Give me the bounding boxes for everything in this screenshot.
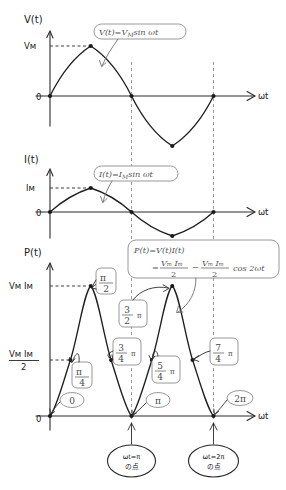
angle-3pi2-leader — [133, 287, 168, 300]
power-formula-equals: = — [152, 262, 159, 272]
angle-pi2-numerator: π — [100, 273, 106, 283]
power-formula-line1: P(t)=V(t)I(t) — [133, 245, 185, 255]
angle-5pi4-denominator: 4 — [157, 372, 163, 382]
angle-3pi2-leader-arrow — [163, 285, 169, 292]
power-formula-callout: P(t)=V(t)I(t) = Vₘ Iₘ 2 − Vₘ Iₘ 2 cos 2ω… — [128, 240, 279, 313]
bottom-callout-pi: ωt=π の点 — [108, 423, 156, 477]
angle-pi-label: π — [155, 396, 161, 406]
angle-0-label: 0 — [69, 396, 75, 406]
bottom-callouts: ωt=π の点 ωt=2π の点 — [108, 423, 239, 477]
voltage-origin-label: 0 — [36, 92, 41, 102]
power-origin-label: 0 — [36, 414, 41, 424]
bottom-callout-pi-line2: の点 — [125, 463, 139, 471]
power-formula-leader — [178, 278, 196, 312]
angle-5pi4-pi-symbol: π — [170, 368, 175, 376]
current-formula-trig: sin ωt — [128, 169, 153, 179]
angle-3pi2-denominator: 2 — [124, 316, 130, 326]
current-peak-tick-label: Iм — [26, 183, 35, 193]
power-mid-tick-denominator: 2 — [21, 362, 26, 372]
angle-2pi-leader — [215, 400, 227, 414]
current-point-max — [89, 186, 93, 190]
angle-3pi4-pi-symbol: π — [131, 350, 136, 358]
angle-5pi4-numerator: 5 — [157, 361, 163, 371]
bottom-callout-2pi-line2: の点 — [207, 463, 221, 471]
bottom-callout-2pi-line1: ωt=2π — [203, 453, 225, 461]
angle-3pi2-pi-symbol: π — [137, 312, 142, 320]
power-formula-num2: Vₘ Iₘ — [202, 258, 224, 268]
angle-3pi2-numerator: 3 — [124, 305, 130, 315]
current-point-pi — [129, 210, 133, 214]
angle-3pi4-denominator: 4 — [118, 354, 124, 364]
angle-callout-0: 0 — [50, 393, 84, 415]
current-formula-callout: I(t)=IMsin ωt — [94, 166, 178, 203]
bottom-callout-2pi-bubble — [189, 445, 239, 477]
voltage-x-axis-label: ωt — [258, 91, 269, 101]
voltage-point-min — [170, 144, 174, 148]
current-origin-label: 0 — [36, 208, 41, 218]
power-point-3pi2 — [170, 284, 174, 288]
power-formula-minus: − — [192, 262, 199, 272]
power-formula-num1: Vₘ Iₘ — [161, 258, 183, 268]
current-formula-eq: = — [112, 169, 119, 179]
angle-7pi4-leader — [194, 351, 210, 359]
current-point-2pi — [211, 210, 215, 214]
voltage-point-pi — [129, 94, 133, 98]
angle-7pi4-denominator: 4 — [215, 354, 221, 364]
current-point-0 — [48, 210, 52, 214]
power-x-axis-label: ωt — [258, 411, 269, 421]
voltage-peak-tick-label: Vм — [24, 41, 36, 51]
panel-voltage: V(t) ωt 0 Vм V(t)=VMsin ωt — [24, 14, 269, 148]
voltage-formula-lhs: V(t) — [99, 27, 115, 37]
voltage-point-2pi — [211, 94, 215, 98]
angle-callout-7pi4: 7 4 π — [193, 338, 238, 365]
voltage-formula-eq: = — [115, 27, 122, 37]
bottom-callout-pi-line1: ωt=π — [123, 453, 141, 461]
voltage-formula-trig: sin ωt — [134, 27, 159, 37]
angle-callout-pi4: π 4 — [70, 354, 92, 388]
angle-7pi4-numerator: 7 — [215, 343, 221, 353]
power-mid-tick: Vм Iм 2 — [9, 349, 39, 372]
angle-callout-pi2: π 2 — [92, 268, 117, 294]
voltage-point-max — [89, 44, 93, 48]
bottom-callout-pi-bubble — [108, 445, 156, 477]
angle-2pi-label: 2π — [234, 394, 246, 404]
angle-pi4-denominator: 4 — [79, 378, 85, 388]
angle-pi4-numerator: π — [76, 367, 82, 377]
current-y-axis-label: I(t) — [24, 154, 39, 165]
power-formula-den2: 2 — [212, 269, 217, 279]
voltage-point-0 — [48, 94, 52, 98]
current-formula-lhs: I(t) — [98, 169, 112, 179]
power-y-axis-label: P(t) — [24, 247, 42, 258]
angle-2pi-leader-arrow — [214, 409, 219, 415]
power-peak-tick-label: Vм Iм — [9, 281, 33, 291]
power-formula-trig: cos 2ωt — [233, 263, 265, 273]
angle-7pi4-pi-symbol: π — [228, 350, 233, 358]
angle-3pi4-numerator: 3 — [118, 343, 124, 353]
angle-callout-3pi4: 3 4 π — [108, 338, 141, 365]
waveform-figure: V(t) ωt 0 Vм V(t)=VMsin ωt I(t) ωt 0 — [0, 0, 286, 490]
panel-power: P(t) ωt 0 Vм Iм Vм Iм 2 P(t)=V(t)I(t) = … — [9, 240, 279, 430]
current-x-axis-label: ωt — [258, 207, 269, 217]
power-formula-den1: 2 — [171, 269, 176, 279]
bottom-callout-2pi: ωt=2π の点 — [189, 423, 239, 477]
current-formula-leader — [103, 181, 112, 202]
power-mid-tick-numerator: Vм Iм — [9, 349, 33, 359]
voltage-y-axis-label: V(t) — [24, 14, 43, 25]
panel-current: I(t) ωt 0 Iм I(t)=IMsin ωt — [24, 154, 269, 238]
current-point-min — [170, 234, 174, 238]
angle-pi2-denominator: 2 — [103, 284, 109, 294]
